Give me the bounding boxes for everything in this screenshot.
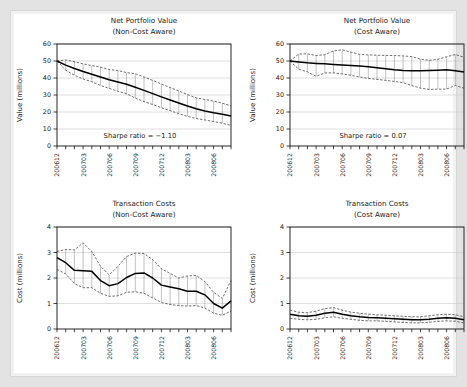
y-axis-label: Cost (millions) <box>16 253 24 303</box>
x-tick-label: 200709 <box>365 153 372 177</box>
x-tick-label: 200706 <box>106 153 113 177</box>
y-tick-label: 60 <box>43 40 51 48</box>
x-tick-label: 200612 <box>286 153 293 177</box>
x-tick-label: 200712 <box>158 336 165 360</box>
y-tick-label: 0 <box>280 325 284 333</box>
x-tick-label: 200806 <box>443 153 450 177</box>
x-tick-label: 200712 <box>391 336 398 360</box>
chart-subtitle: (Non-Cost Aware) <box>113 27 176 36</box>
x-tick-label: 200806 <box>210 153 217 177</box>
x-tick-label: 200803 <box>184 153 191 177</box>
y-tick-label: 2 <box>280 274 284 282</box>
chart-subtitle: (Cost Aware) <box>354 27 400 36</box>
panel-transaction-costs-non-cost-aware: Transaction Costs(Non-Cost Aware)0123420… <box>11 194 244 377</box>
figure-container: Net Portfolio Value(Non-Cost Aware)01020… <box>10 10 457 377</box>
x-tick-label: 200712 <box>158 153 165 177</box>
x-tick-label: 200612 <box>53 153 60 177</box>
y-tick-label: 40 <box>276 74 284 82</box>
x-tick-label: 200612 <box>53 336 60 360</box>
x-tick-label: 200803 <box>417 336 424 360</box>
chart-title: Transaction Costs <box>111 199 175 208</box>
y-tick-label: 2 <box>47 274 51 282</box>
x-tick-label: 200703 <box>80 153 87 177</box>
y-tick-label: 20 <box>276 108 284 116</box>
y-tick-label: 3 <box>47 249 51 257</box>
y-tick-label: 30 <box>43 91 51 99</box>
y-tick-label: 1 <box>47 300 51 308</box>
chart-subtitle: (Cost Aware) <box>354 210 400 219</box>
y-tick-label: 3 <box>280 249 284 257</box>
y-tick-label: 50 <box>43 57 51 65</box>
panel-transaction-costs-cost-aware: Transaction Costs(Cost Aware)01234200612… <box>244 194 467 377</box>
x-tick-label: 200709 <box>365 336 372 360</box>
x-tick-label: 200803 <box>417 153 424 177</box>
x-tick-label: 200712 <box>391 153 398 177</box>
x-tick-label: 200806 <box>443 336 450 360</box>
chart-grid: Net Portfolio Value(Non-Cost Aware)01020… <box>11 11 456 376</box>
y-tick-label: 60 <box>276 40 284 48</box>
y-tick-label: 0 <box>47 325 51 333</box>
y-axis-label: Value (millions) <box>249 68 257 122</box>
x-tick-label: 200709 <box>132 336 139 360</box>
panel-net-portfolio-value-non-cost-aware: Net Portfolio Value(Non-Cost Aware)01020… <box>11 11 244 194</box>
y-tick-label: 4 <box>280 223 284 231</box>
y-axis-label: Value (millions) <box>16 68 24 122</box>
x-tick-label: 200806 <box>210 336 217 360</box>
sharpe-ratio-annotation: Sharpe ratio = −1.10 <box>104 132 177 140</box>
x-tick-label: 200612 <box>286 336 293 360</box>
y-tick-label: 0 <box>280 142 284 150</box>
chart-title: Net Portfolio Value <box>111 16 178 25</box>
x-tick-label: 200709 <box>132 153 139 177</box>
panel-net-portfolio-value-cost-aware: Net Portfolio Value(Cost Aware)010203040… <box>244 11 467 194</box>
y-tick-label: 50 <box>276 57 284 65</box>
x-tick-label: 200803 <box>184 336 191 360</box>
x-tick-label: 200706 <box>339 153 346 177</box>
y-tick-label: 10 <box>43 125 51 133</box>
x-tick-label: 200703 <box>313 336 320 360</box>
y-tick-label: 0 <box>47 142 51 150</box>
chart-transaction-costs-non-cost-aware[interactable]: Transaction Costs(Non-Cost Aware)0123420… <box>11 194 244 377</box>
y-tick-label: 10 <box>276 125 284 133</box>
y-tick-label: 30 <box>276 91 284 99</box>
x-tick-label: 200706 <box>106 336 113 360</box>
chart-title: Transaction Costs <box>344 199 408 208</box>
x-tick-label: 200703 <box>80 336 87 360</box>
x-tick-label: 200706 <box>339 336 346 360</box>
chart-title: Net Portfolio Value <box>344 16 411 25</box>
chart-transaction-costs-cost-aware[interactable]: Transaction Costs(Cost Aware)01234200612… <box>244 194 467 377</box>
chart-net-portfolio-value-cost-aware[interactable]: Net Portfolio Value(Cost Aware)010203040… <box>244 11 467 194</box>
y-tick-label: 20 <box>43 108 51 116</box>
sharpe-ratio-annotation: Sharpe ratio = 0.07 <box>339 132 406 140</box>
chart-subtitle: (Non-Cost Aware) <box>113 210 176 219</box>
y-axis-label: Cost (millions) <box>249 253 257 303</box>
x-tick-label: 200703 <box>313 153 320 177</box>
y-tick-label: 1 <box>280 300 284 308</box>
y-tick-label: 40 <box>43 74 51 82</box>
screenshot-page: Net Portfolio Value(Non-Cost Aware)01020… <box>0 0 467 387</box>
chart-net-portfolio-value-non-cost-aware[interactable]: Net Portfolio Value(Non-Cost Aware)01020… <box>11 11 244 194</box>
y-tick-label: 4 <box>47 223 51 231</box>
